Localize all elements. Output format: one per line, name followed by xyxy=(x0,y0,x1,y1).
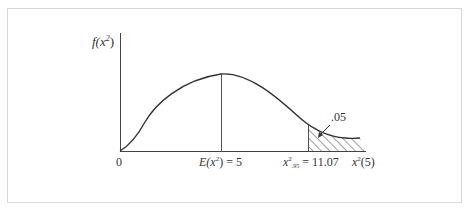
critical-value-label: x2.95 = 11.07 xyxy=(282,155,339,169)
mean-label: E(x2) = 5 xyxy=(198,155,242,169)
origin-label: 0 xyxy=(116,155,122,169)
y-axis-label: f(x2) xyxy=(92,34,114,49)
shaded-tail-area xyxy=(308,120,368,152)
tail-area-label: .05 xyxy=(331,110,346,124)
chi-square-chart: f(x2) 0 E(x2) = 5 x2.95 = 11.07 x2(5) .0… xyxy=(0,0,470,212)
x-axis-label: x2(5) xyxy=(351,155,375,169)
